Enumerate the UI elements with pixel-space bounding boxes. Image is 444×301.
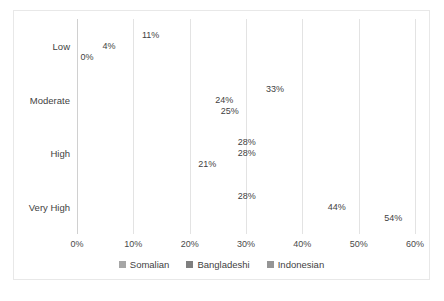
bar-value-label: 0% <box>81 52 94 62</box>
bar-bangladeshi-high: 28% <box>77 148 235 159</box>
x-axis-tick-labels: 0%10%20%30%40%50%60% <box>77 239 415 253</box>
x-tick-20: 20% <box>181 239 199 249</box>
legend-label: Indonesian <box>278 259 324 270</box>
bar-value-label: 24% <box>215 95 233 105</box>
bar-value-label: 4% <box>103 41 116 51</box>
category-label-high: High <box>50 148 70 159</box>
legend-label: Somalian <box>130 259 170 270</box>
bar-indonesian-moderate: 25% <box>77 105 218 116</box>
plot-area: Low11%4%0%Moderate33%24%25%High28%28%21%… <box>77 19 415 234</box>
category-label-moderate: Moderate <box>30 94 70 105</box>
bar-bangladeshi-moderate: 24% <box>77 94 212 105</box>
legend-swatch-icon <box>267 261 274 268</box>
bar-indonesian-high: 21% <box>77 159 195 170</box>
x-tick-40: 40% <box>293 239 311 249</box>
legend-swatch-icon <box>119 261 126 268</box>
bar-value-label: 11% <box>142 30 159 40</box>
gridline-60 <box>415 19 416 234</box>
bar-indonesian-very-high: 54% <box>77 213 381 224</box>
category-label-very-high: Very High <box>29 202 70 213</box>
category-group: Low11%4%0% <box>77 19 415 73</box>
bar-indonesian-low: 0% <box>77 51 78 62</box>
legend-swatch-icon <box>186 261 193 268</box>
chart-frame: Low11%4%0%Moderate33%24%25%High28%28%21%… <box>13 10 430 280</box>
bar-value-label: 28% <box>238 191 256 201</box>
category-group: High28%28%21% <box>77 127 415 181</box>
x-tick-50: 50% <box>350 239 368 249</box>
chart-legend: SomalianBangladeshiIndonesian <box>14 259 429 270</box>
bar-value-label: 25% <box>221 106 239 116</box>
bar-value-label: 21% <box>198 159 216 169</box>
x-tick-30: 30% <box>237 239 255 249</box>
bar-somalian-very-high: 28% <box>77 191 235 202</box>
bar-value-label: 33% <box>266 84 284 94</box>
bar-value-label: 54% <box>384 213 402 223</box>
bar-value-label: 28% <box>238 148 256 158</box>
x-tick-60: 60% <box>406 239 424 249</box>
legend-item-indonesian[interactable]: Indonesian <box>267 259 324 270</box>
figure-caption <box>0 287 444 298</box>
bar-value-label: 28% <box>238 137 256 147</box>
bar-bangladeshi-low: 4% <box>77 40 100 51</box>
bar-somalian-high: 28% <box>77 137 235 148</box>
legend-label: Bangladeshi <box>197 259 249 270</box>
category-group: Moderate33%24%25% <box>77 73 415 127</box>
legend-item-bangladeshi[interactable]: Bangladeshi <box>186 259 249 270</box>
bar-value-label: 44% <box>328 202 346 212</box>
bar-bangladeshi-very-high: 44% <box>77 202 325 213</box>
x-tick-10: 10% <box>124 239 142 249</box>
bar-somalian-low: 11% <box>77 29 139 40</box>
x-tick-0: 0% <box>70 239 83 249</box>
bar-somalian-moderate: 33% <box>77 83 263 94</box>
legend-item-somalian[interactable]: Somalian <box>119 259 170 270</box>
category-label-low: Low <box>53 40 70 51</box>
category-group: Very High28%44%54% <box>77 180 415 234</box>
